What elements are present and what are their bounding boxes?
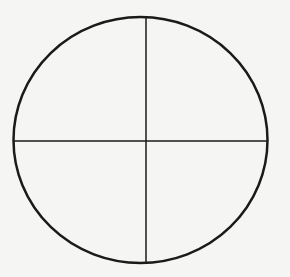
- circle-diagram: [0, 0, 290, 277]
- diagram-canvas: [0, 0, 290, 277]
- circle-outline: [14, 17, 268, 263]
